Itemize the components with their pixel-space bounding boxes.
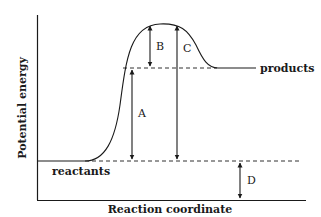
label-c: C	[183, 42, 191, 55]
x-axis-label: Reaction coordinate	[108, 203, 233, 216]
energy-diagram: A B C D products reactants Reaction coor…	[0, 0, 321, 217]
label-a: A	[137, 107, 147, 120]
reactants-label: reactants	[52, 165, 110, 178]
label-d: D	[247, 174, 256, 187]
energy-curve	[37, 24, 256, 161]
products-label: products	[260, 62, 314, 75]
label-b: B	[156, 40, 164, 53]
y-axis-label: Potential energy	[16, 57, 29, 159]
